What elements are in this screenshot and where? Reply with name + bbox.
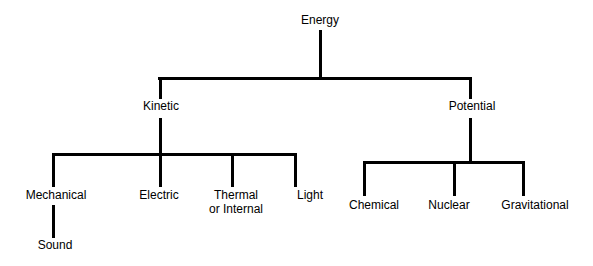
- node-label-thermal-second-line: or Internal: [209, 203, 263, 216]
- node-label-energy: Energy: [301, 14, 339, 27]
- node-label-light: Light: [297, 189, 323, 202]
- energy-tree-diagram: Energy Kinetic Potential Mechanical Elec…: [0, 0, 593, 266]
- node-label-kinetic: Kinetic: [143, 100, 179, 113]
- node-label-thermal: Thermal: [214, 189, 258, 202]
- node-label-nuclear: Nuclear: [428, 199, 469, 212]
- tree-connector-lines: [0, 0, 593, 266]
- node-label-electric: Electric: [139, 189, 178, 202]
- node-label-chemical: Chemical: [349, 199, 399, 212]
- node-label-gravitational: Gravitational: [501, 199, 568, 212]
- node-label-mechanical: Mechanical: [26, 189, 87, 202]
- node-label-potential: Potential: [449, 100, 496, 113]
- node-label-sound: Sound: [38, 239, 73, 252]
